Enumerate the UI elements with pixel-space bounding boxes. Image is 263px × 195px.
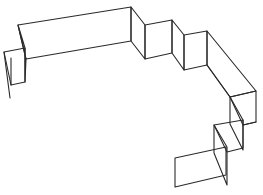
fold-2 — [172, 20, 184, 70]
step-panel-middle — [214, 120, 243, 152]
panel-3 — [184, 31, 207, 70]
folded-wall-diagram — [0, 0, 263, 195]
long-front-panel — [18, 7, 131, 59]
long-diagonal-bottom — [207, 65, 230, 97]
step-fold-upper — [230, 97, 243, 150]
panel-2 — [145, 20, 172, 59]
long-diagonal-top — [207, 31, 256, 97]
upper-bottom-edge — [243, 122, 256, 125]
bottom-panel — [175, 147, 226, 187]
figure-canvas — [0, 0, 263, 195]
fold-1 — [131, 7, 145, 59]
